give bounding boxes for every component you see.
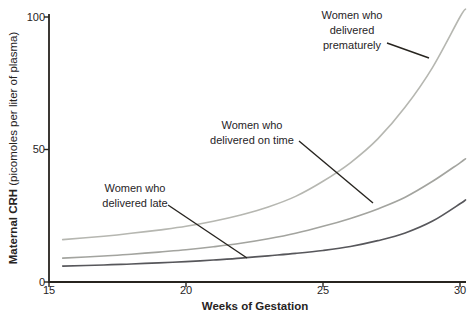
annotation-line: Women who	[210, 118, 294, 133]
x-tick-label-25: 25	[317, 284, 329, 297]
annotation-line: Women who	[102, 181, 167, 196]
y-tick-label-100: 100	[0, 11, 45, 24]
axes	[49, 14, 466, 282]
annotation-delivered-prematurely: Women who delivered prematurely	[322, 8, 383, 53]
annotation-pointer-line	[387, 43, 429, 58]
y-axis-title: Maternal CRH (picomoles per liter of pla…	[6, 32, 20, 265]
annotation-delivered-on-time: Women who delivered on time	[210, 118, 294, 148]
annotation-pointer-line	[299, 141, 373, 203]
y-axis-title-units: (picomoles per liter of plasma)	[7, 32, 19, 189]
annotation-line: Women who	[322, 8, 383, 23]
annotation-delivered-late: Women who delivered late	[102, 181, 167, 211]
chart-canvas	[0, 0, 473, 318]
x-tick-label-15: 15	[43, 284, 55, 297]
annotation-line: delivered late	[102, 196, 167, 211]
annotation-line: delivered on time	[210, 133, 294, 148]
annotation-line: delivered	[322, 23, 383, 38]
y-axis-title-bold: Maternal CRH	[7, 189, 19, 264]
y-tick-label-0: 0	[0, 276, 45, 289]
x-axis-title: Weeks of Gestation	[202, 299, 309, 313]
annotation-line: prematurely	[322, 38, 383, 53]
crh-gestation-chart: 100 50 0 15 20 25 30 Weeks of Gestation …	[0, 0, 473, 318]
x-tick-label-20: 20	[180, 284, 192, 297]
x-tick-label-30: 30	[454, 284, 466, 297]
